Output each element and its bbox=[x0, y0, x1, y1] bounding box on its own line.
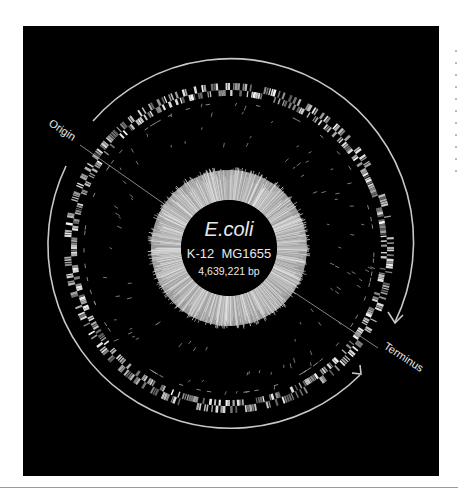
gene-mark bbox=[382, 288, 389, 290]
feature-mark bbox=[271, 121, 273, 123]
gene-mark bbox=[65, 233, 72, 234]
gene-mark bbox=[266, 88, 268, 95]
feature-mark bbox=[250, 136, 252, 138]
gene-mark bbox=[64, 260, 71, 261]
gene-mark bbox=[210, 399, 211, 405]
gene-mark bbox=[264, 87, 266, 94]
feature-mark bbox=[311, 309, 313, 312]
feature-mark bbox=[352, 272, 356, 274]
feature-mark bbox=[301, 175, 304, 176]
feature-mark bbox=[249, 371, 250, 374]
gene-mark bbox=[386, 267, 393, 268]
gene-mark bbox=[217, 406, 218, 413]
feature-mark bbox=[179, 343, 182, 347]
gene-mark bbox=[353, 347, 358, 351]
feature-mark bbox=[152, 371, 156, 373]
gene-mark bbox=[74, 277, 80, 278]
feature-mark bbox=[335, 193, 339, 194]
gene-mark bbox=[197, 403, 198, 410]
gene-mark bbox=[81, 301, 87, 303]
origin-label: Origin bbox=[47, 117, 78, 143]
gene-mark bbox=[272, 394, 274, 400]
feature-mark bbox=[321, 191, 325, 192]
gene-mark bbox=[120, 134, 124, 138]
feature-mark bbox=[108, 328, 110, 332]
gene-mark bbox=[104, 151, 109, 155]
gene-mark bbox=[92, 169, 97, 172]
feature-mark bbox=[94, 301, 96, 305]
gene-mark bbox=[346, 345, 351, 349]
gene-mark bbox=[382, 285, 389, 287]
gene-mark bbox=[247, 91, 248, 97]
gene-mark bbox=[91, 335, 97, 339]
feature-mark bbox=[179, 384, 183, 385]
feature-mark bbox=[330, 288, 333, 290]
gene-mark bbox=[204, 85, 205, 92]
gene-mark bbox=[192, 95, 193, 101]
gene-mark bbox=[66, 274, 73, 275]
feature-mark bbox=[136, 338, 139, 339]
feature-mark bbox=[259, 370, 260, 373]
gene-mark bbox=[380, 231, 386, 232]
gene-mark bbox=[258, 93, 259, 99]
feature-mark bbox=[211, 113, 212, 117]
feature-mark bbox=[244, 106, 246, 111]
gene-mark bbox=[123, 131, 127, 135]
feature-mark bbox=[335, 266, 339, 268]
feature-mark bbox=[274, 384, 278, 385]
gene-mark bbox=[248, 405, 249, 412]
feature-mark bbox=[330, 263, 334, 265]
feature-mark bbox=[308, 367, 312, 369]
gene-mark bbox=[381, 202, 388, 204]
gene-mark bbox=[379, 224, 385, 225]
gene-mark bbox=[142, 382, 146, 388]
gene-mark bbox=[73, 222, 79, 223]
gene-mark bbox=[278, 98, 280, 104]
gene-mark bbox=[379, 275, 385, 276]
feature-mark bbox=[349, 166, 351, 170]
gene-mark bbox=[263, 396, 264, 402]
gene-mark bbox=[67, 216, 74, 217]
gene-mark bbox=[202, 85, 203, 92]
gene-mark bbox=[255, 404, 256, 411]
terminus-label: Terminus bbox=[382, 340, 426, 375]
feature-mark bbox=[319, 359, 322, 362]
gene-mark bbox=[68, 283, 75, 285]
gene-mark bbox=[254, 92, 255, 98]
feature-mark bbox=[157, 120, 161, 122]
gene-mark bbox=[298, 99, 301, 105]
gene-mark bbox=[289, 95, 292, 101]
feature-mark bbox=[357, 285, 360, 287]
gene-mark bbox=[246, 405, 247, 412]
gene-mark bbox=[295, 385, 298, 390]
gene-mark bbox=[300, 389, 303, 395]
feature-mark bbox=[372, 224, 373, 228]
gene-mark bbox=[173, 397, 175, 404]
gene-mark bbox=[342, 350, 346, 354]
gene-mark bbox=[215, 399, 216, 405]
gene-mark bbox=[378, 277, 384, 278]
gene-mark bbox=[142, 108, 146, 114]
gene-mark bbox=[278, 91, 280, 98]
feature-mark bbox=[93, 193, 95, 197]
gene-mark bbox=[171, 389, 173, 395]
feature-mark bbox=[201, 104, 202, 107]
gene-mark bbox=[217, 83, 218, 90]
gene-mark bbox=[72, 229, 78, 230]
gene-mark bbox=[253, 404, 254, 411]
feature-mark bbox=[247, 372, 248, 375]
gene-mark bbox=[379, 220, 385, 221]
feature-mark bbox=[147, 134, 148, 137]
feature-mark bbox=[132, 336, 135, 337]
gene-mark bbox=[67, 276, 74, 277]
gene-mark bbox=[276, 399, 278, 406]
feature-mark bbox=[294, 358, 295, 363]
gene-mark bbox=[176, 92, 178, 99]
gene-mark bbox=[246, 84, 247, 91]
gene-mark bbox=[261, 93, 262, 99]
gene-mark bbox=[320, 113, 324, 119]
gene-mark bbox=[127, 364, 131, 369]
gene-mark bbox=[252, 92, 253, 98]
gene-mark bbox=[381, 290, 388, 292]
gene-mark bbox=[289, 103, 291, 109]
